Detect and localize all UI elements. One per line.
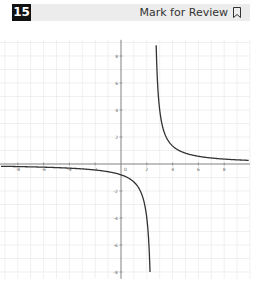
y-tick-label: 2 [115, 135, 118, 140]
origin-label: 0 [124, 167, 127, 172]
curve-right-branch [156, 45, 249, 160]
question-header: 15 Mark for Review [12, 4, 250, 21]
x-tick-label: 6 [197, 167, 200, 172]
mark-for-review-button[interactable]: Mark for Review [140, 4, 229, 21]
function-graph: -8-6-4-2246808642-2-4-6-8 [0, 30, 261, 284]
x-tick-label: 8 [223, 167, 226, 172]
bookmark-icon[interactable] [233, 7, 241, 18]
y-tick-label: -6 [114, 243, 119, 248]
x-tick-label: -8 [16, 167, 21, 172]
y-tick-label: 6 [115, 81, 118, 86]
y-tick-label: 4 [115, 108, 118, 113]
x-tick-label: 2 [145, 167, 148, 172]
y-tick-label: -8 [114, 270, 119, 275]
y-tick-label: 8 [115, 54, 118, 59]
y-tick-label: -4 [114, 216, 119, 221]
y-tick-label: -2 [114, 189, 119, 194]
x-tick-label: 4 [171, 167, 174, 172]
question-number-badge: 15 [12, 4, 31, 21]
curve-left-branch [1, 166, 150, 272]
